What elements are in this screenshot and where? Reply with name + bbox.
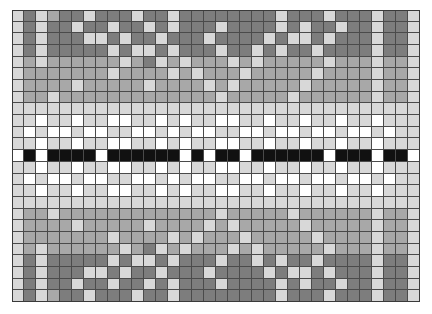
heatmap-cell — [48, 68, 60, 80]
heatmap-cell — [36, 103, 48, 115]
heatmap-cell — [72, 279, 84, 291]
heatmap-cell — [204, 127, 216, 139]
heatmap-cell — [228, 57, 240, 69]
heatmap-cell — [384, 197, 396, 209]
heatmap-cell — [108, 244, 120, 256]
heatmap-cell — [300, 197, 312, 209]
heatmap-cell — [12, 68, 24, 80]
heatmap-cell — [84, 92, 96, 104]
heatmap-cell — [168, 150, 180, 162]
heatmap-cell — [288, 127, 300, 139]
heatmap-cell — [120, 267, 132, 279]
heatmap-cell — [156, 138, 168, 150]
heatmap-cell — [240, 138, 252, 150]
heatmap-cell — [336, 185, 348, 197]
heatmap-cell — [360, 290, 372, 302]
heatmap-cell — [312, 255, 324, 267]
heatmap-cell — [240, 57, 252, 69]
heatmap-cell — [84, 33, 96, 45]
heatmap-cell — [228, 255, 240, 267]
heatmap-cell — [84, 22, 96, 34]
heatmap-cell — [300, 244, 312, 256]
heatmap-cell — [240, 209, 252, 221]
heatmap-cell — [228, 185, 240, 197]
heatmap-cell — [288, 255, 300, 267]
heatmap-cell — [48, 279, 60, 291]
heatmap-cell — [108, 267, 120, 279]
heatmap-cell — [132, 209, 144, 221]
heatmap-cell — [204, 68, 216, 80]
heatmap-cell — [180, 290, 192, 302]
heatmap-cell — [372, 279, 384, 291]
heatmap-cell — [168, 220, 180, 232]
heatmap-cell — [96, 57, 108, 69]
heatmap-cell — [72, 138, 84, 150]
heatmap-cell — [348, 115, 360, 127]
heatmap-cell — [96, 115, 108, 127]
heatmap-cell — [60, 138, 72, 150]
heatmap-cell — [384, 22, 396, 34]
heatmap-cell — [324, 279, 336, 291]
heatmap-cell — [60, 33, 72, 45]
heatmap-cell — [360, 279, 372, 291]
heatmap-cell — [180, 197, 192, 209]
heatmap-cell — [312, 10, 324, 22]
heatmap-cell — [36, 57, 48, 69]
heatmap-cell — [240, 45, 252, 57]
heatmap-cell — [36, 267, 48, 279]
heatmap-cell — [36, 209, 48, 221]
heatmap-cell — [144, 68, 156, 80]
heatmap-cell — [312, 22, 324, 34]
heatmap-cell — [108, 162, 120, 174]
heatmap-cell — [192, 150, 204, 162]
heatmap-cell — [132, 115, 144, 127]
heatmap-cell — [276, 209, 288, 221]
heatmap-cell — [360, 162, 372, 174]
heatmap-cell — [384, 68, 396, 80]
heatmap-cell — [48, 174, 60, 186]
heatmap-cell — [336, 290, 348, 302]
heatmap-cell — [300, 185, 312, 197]
heatmap-cell — [312, 279, 324, 291]
heatmap-cell — [384, 115, 396, 127]
heatmap-cell — [156, 115, 168, 127]
heatmap-cell — [300, 80, 312, 92]
heatmap-cell — [36, 92, 48, 104]
heatmap-cell — [192, 103, 204, 115]
heatmap-cell — [204, 33, 216, 45]
heatmap-cell — [204, 138, 216, 150]
heatmap-cell — [336, 232, 348, 244]
heatmap-cell — [360, 220, 372, 232]
heatmap-cell — [252, 209, 264, 221]
heatmap-cell — [168, 138, 180, 150]
heatmap-cell — [408, 255, 420, 267]
heatmap-cell — [288, 10, 300, 22]
heatmap-cell — [204, 197, 216, 209]
heatmap-cell — [96, 220, 108, 232]
heatmap-cell — [24, 185, 36, 197]
heatmap-cell — [12, 45, 24, 57]
heatmap-cell — [216, 232, 228, 244]
heatmap-cell — [396, 115, 408, 127]
heatmap-cell — [336, 255, 348, 267]
heatmap-cell — [84, 150, 96, 162]
heatmap-cell — [396, 267, 408, 279]
heatmap-cell — [240, 267, 252, 279]
heatmap-cell — [204, 57, 216, 69]
heatmap-cell — [312, 185, 324, 197]
heatmap-cell — [132, 22, 144, 34]
heatmap-cell — [216, 220, 228, 232]
heatmap-cell — [264, 45, 276, 57]
heatmap-cell — [288, 290, 300, 302]
heatmap-cell — [252, 162, 264, 174]
heatmap-cell — [252, 127, 264, 139]
heatmap-cell — [204, 80, 216, 92]
heatmap-cell — [384, 267, 396, 279]
heatmap-cell — [180, 115, 192, 127]
heatmap-cell — [132, 197, 144, 209]
heatmap-cell — [384, 185, 396, 197]
heatmap-cell — [144, 197, 156, 209]
heatmap-cell — [72, 267, 84, 279]
heatmap-cell — [132, 127, 144, 139]
heatmap-cell — [252, 138, 264, 150]
